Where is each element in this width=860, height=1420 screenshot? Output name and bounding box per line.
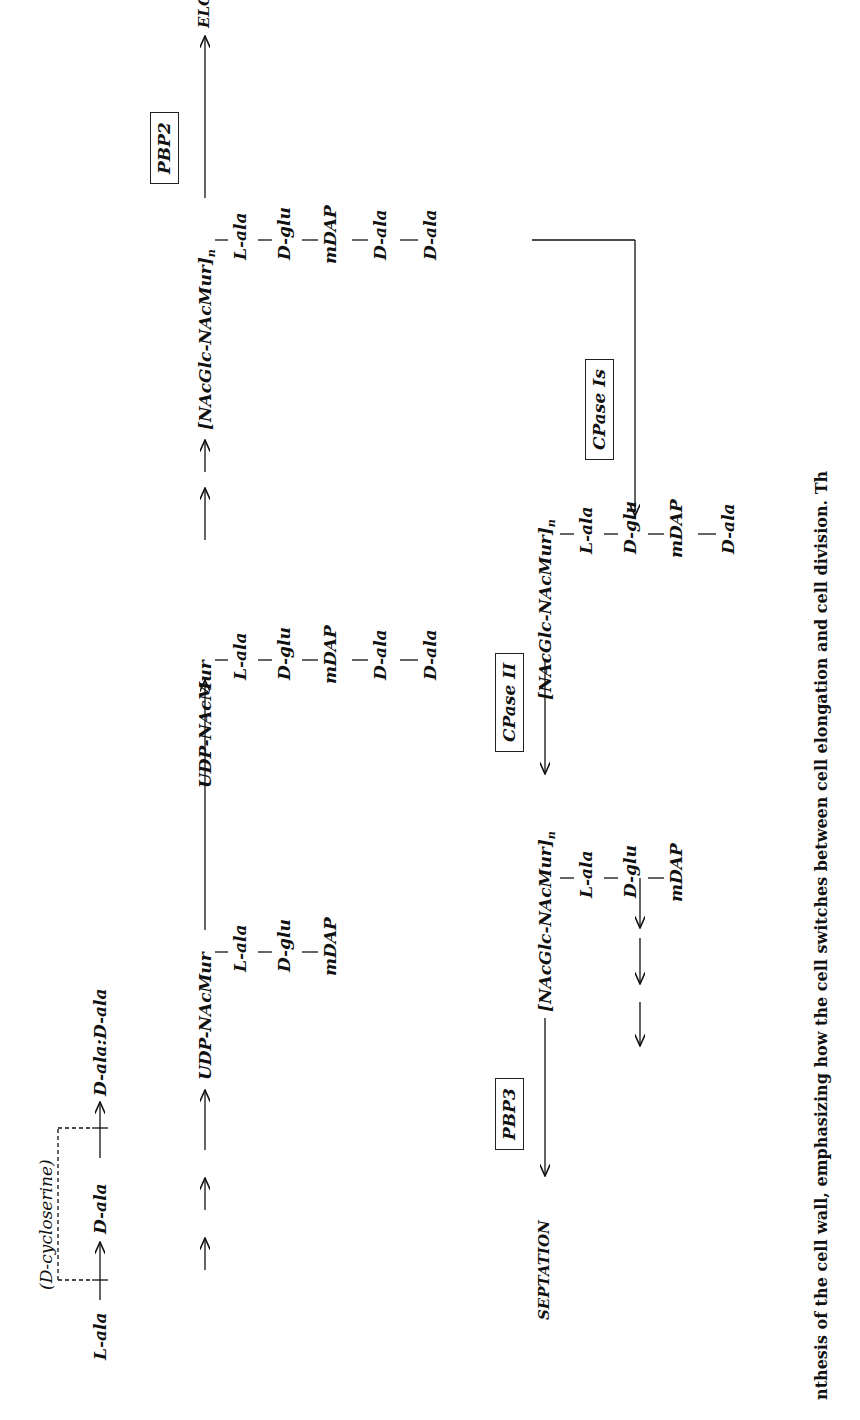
udp-nacmur-long: UDP-NAcMur: [197, 660, 214, 788]
udp-nacmur-short: UDP-NAcMur: [197, 952, 214, 1080]
tetrapeptide-chain-4: D-ala: [720, 503, 737, 554]
polymer-tripeptide-head: [NAcGlc-NAcMur]n: [537, 831, 557, 1012]
pentapeptide-chain-4: D-ala: [372, 209, 389, 260]
pentapeptide-chain-2: D-glu: [276, 207, 293, 260]
elongation-outcome: ELONGATION: [197, 0, 212, 28]
figure-caption-fragment: nthesis of the cell wall, emphasizing ho…: [812, 471, 831, 1400]
cpase-ii-enzyme-box: CPase II: [495, 653, 524, 752]
tripeptide-chain-3: mDAP: [668, 843, 685, 902]
tripeptide-chain-1: L-ala: [578, 851, 595, 899]
udp-short-chain-2: D-glu: [276, 919, 293, 972]
udp-long-chain-1: L-ala: [232, 633, 249, 681]
polymer-tetrapeptide-head: [NAcGlc-NAcMur]n: [537, 519, 557, 700]
cpase-is-enzyme-box: CPase Is: [585, 359, 614, 460]
pentapeptide-chain-1: L-ala: [232, 213, 249, 261]
tetrapeptide-chain-3: mDAP: [668, 499, 685, 558]
udp-short-chain-1: L-ala: [232, 925, 249, 973]
pathway-diagram: L-ala D-ala D-ala:D-ala (D-cycloserine) …: [0, 0, 860, 1420]
septation-outcome: SEPTATION: [537, 1220, 552, 1320]
udp-long-chain-3: mDAP: [322, 625, 339, 684]
pbp2-enzyme-box: PBP2: [150, 112, 179, 184]
cycloserine-inhibitor-label: (D-cycloserine): [38, 1159, 55, 1290]
l-ala-label: L-ala: [92, 1313, 109, 1361]
udp-short-chain-3: mDAP: [322, 917, 339, 976]
tripeptide-chain-2: D-glu: [622, 845, 639, 898]
tetrapeptide-chain-2: D-glu: [622, 501, 639, 554]
udp-long-chain-2: D-glu: [276, 627, 293, 680]
udp-long-chain-5: D-ala: [422, 629, 439, 680]
polymer-pentapeptide-head: [NAcGlc-NAcMur]n: [197, 249, 217, 430]
udp-long-chain-4: D-ala: [372, 629, 389, 680]
d-ala-label: D-ala: [92, 1183, 109, 1234]
pentapeptide-chain-5: D-ala: [422, 209, 439, 260]
d-ala-dipeptide-label: D-ala:D-ala: [92, 989, 109, 1096]
pentapeptide-chain-3: mDAP: [322, 205, 339, 264]
tetrapeptide-chain-1: L-ala: [578, 507, 595, 555]
pbp3-enzyme-box: PBP3: [495, 1078, 524, 1150]
